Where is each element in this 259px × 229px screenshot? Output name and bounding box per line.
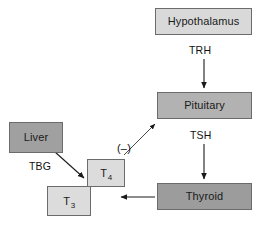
node-t3[interactable]: T3 — [47, 186, 91, 216]
edge-label-trh: TRH — [189, 45, 211, 56]
node-thyroid-label: Thyroid — [186, 191, 223, 202]
node-t4-subscript: 4 — [108, 173, 113, 182]
node-t3-label: T3 — [63, 196, 74, 207]
edge-tbg-arrow — [55, 152, 84, 178]
edge-label-negative-feedback: (–) — [117, 143, 131, 154]
node-t4[interactable]: T4 — [87, 159, 125, 187]
node-t4-label: T4 — [100, 168, 111, 179]
node-t3-base: T — [63, 195, 70, 207]
node-liver-label: Liver — [24, 132, 48, 143]
node-hypothalamus-label: Hypothalamus — [168, 16, 240, 27]
node-thyroid[interactable]: Thyroid — [157, 183, 252, 210]
node-pituitary-label: Pituitary — [184, 100, 225, 111]
edge-label-tsh: TSH — [190, 130, 212, 141]
thyroid-axis-diagram: Hypothalamus Pituitary Thyroid Liver T4 … — [0, 0, 259, 229]
node-t4-base: T — [100, 167, 107, 179]
node-hypothalamus[interactable]: Hypothalamus — [155, 8, 252, 35]
edge-label-tbg: TBG — [29, 161, 51, 172]
node-t3-subscript: 3 — [71, 201, 76, 210]
node-pituitary[interactable]: Pituitary — [157, 92, 252, 119]
node-liver[interactable]: Liver — [9, 122, 63, 153]
